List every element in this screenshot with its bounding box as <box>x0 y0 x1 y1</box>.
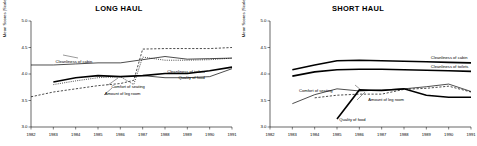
x-tick-label-short-haul-1: 1983 <box>288 132 298 137</box>
y-tick-label-long-haul-1: 3.5 <box>22 98 29 103</box>
leader-cleanliness-of-cabin-long-haul <box>63 55 78 58</box>
series-label-cleanliness-of-cabin-short-haul: Cleanliness of cabin <box>431 55 468 60</box>
series-line-quality-of-food-short-haul <box>337 89 471 119</box>
plot-short-haul: 3.03.54.04.55.01982198319841985198619871… <box>239 0 477 146</box>
leader-amount-of-leg-room-short-haul <box>355 85 361 90</box>
y-tick-label-short-haul-2: 4.0 <box>261 71 268 76</box>
panel-long-haul: LONG HAUL Mean Scores (Scale 1-5) 3.03.5… <box>0 0 238 146</box>
series-line-cleanliness-of-toilets-long-haul <box>53 67 232 82</box>
x-tick-label-short-haul-6: 1988 <box>399 132 409 137</box>
x-tick-label-short-haul-9: 1991 <box>466 132 476 137</box>
x-tick-label-long-haul-9: 1991 <box>227 132 237 137</box>
x-tick-label-long-haul-7: 1989 <box>183 132 193 137</box>
leader-quality-of-food-short-haul <box>357 92 365 100</box>
x-tick-label-long-haul-2: 1984 <box>71 132 81 137</box>
axis-lines-long-haul <box>31 21 232 127</box>
series-label-quality-of-food-short-haul: Quality of food <box>339 117 366 122</box>
y-tick-label-short-haul-1: 3.5 <box>261 98 268 103</box>
y-tick-label-short-haul-0: 3.0 <box>261 124 268 129</box>
y-tick-label-long-haul-2: 4.0 <box>22 71 29 76</box>
x-tick-label-short-haul-7: 1989 <box>422 132 432 137</box>
y-tick-label-long-haul-3: 4.5 <box>22 45 29 50</box>
series-label-cleanliness-of-toilets-short-haul: Cleanliness of toilets <box>431 64 469 69</box>
series-label-quality-of-food-long-haul: Quality of food <box>178 75 205 80</box>
figure-two-panel-line-charts: LONG HAUL Mean Scores (Scale 1-5) 3.03.5… <box>0 0 477 146</box>
y-tick-label-long-haul-4: 5.0 <box>22 18 29 23</box>
panel-short-haul: SHORT HAUL Mean Scores (Scale 1-5) 3.03.… <box>239 0 477 146</box>
x-tick-label-long-haul-4: 1986 <box>116 132 126 137</box>
series-label-comfort-of-seating-long-haul: Comfort of seating <box>111 84 145 89</box>
y-tick-label-short-haul-3: 4.5 <box>261 45 268 50</box>
series-line-cleanliness-of-toilets-short-haul <box>292 69 471 76</box>
x-tick-label-long-haul-3: 1985 <box>93 132 103 137</box>
y-tick-label-long-haul-0: 3.0 <box>22 124 29 129</box>
x-tick-label-short-haul-5: 1987 <box>377 132 387 137</box>
x-tick-label-long-haul-1: 1983 <box>49 132 59 137</box>
x-tick-label-short-haul-3: 1985 <box>332 132 342 137</box>
x-tick-label-short-haul-8: 1990 <box>444 132 454 137</box>
x-tick-label-short-haul-2: 1984 <box>310 132 320 137</box>
x-tick-label-long-haul-0: 1982 <box>26 132 36 137</box>
y-tick-label-short-haul-4: 5.0 <box>261 18 268 23</box>
series-label-comfort-of-seating-short-haul: Comfort of seating <box>299 88 333 93</box>
series-label-cleanliness-of-toilets-long-haul: Cleanliness of toilets <box>167 69 205 74</box>
x-tick-label-long-haul-5: 1987 <box>138 132 148 137</box>
series-label-amount-of-leg-room-long-haul: Amount of leg room <box>105 91 141 96</box>
plot-long-haul: 3.03.54.04.55.01982198319841985198619871… <box>0 0 238 146</box>
series-label-amount-of-leg-room-short-haul: Amount of leg room <box>368 97 404 102</box>
x-tick-label-short-haul-0: 1982 <box>265 132 275 137</box>
series-label-cleanliness-of-cabin-long-haul: Cleanliness of cabin <box>56 59 93 64</box>
x-tick-label-short-haul-4: 1986 <box>355 132 365 137</box>
x-tick-label-long-haul-8: 1990 <box>205 132 215 137</box>
x-tick-label-long-haul-6: 1988 <box>160 132 170 137</box>
